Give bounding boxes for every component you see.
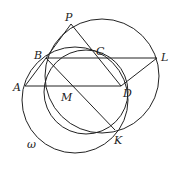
segment-BK — [46, 58, 115, 130]
point-label-C: C — [96, 45, 105, 58]
segment-AB — [25, 58, 46, 86]
segment-DL — [121, 58, 157, 86]
segment-BP — [46, 24, 71, 58]
point-label-P: P — [64, 11, 73, 24]
circle-omega — [22, 47, 128, 153]
point-label-A: A — [12, 81, 21, 94]
labels: ωABPCLMDK — [12, 11, 168, 151]
point-label-M: M — [60, 91, 73, 104]
point-label-B: B — [33, 49, 42, 62]
geometry-diagram: ωABPCLMDK — [0, 0, 176, 173]
circle-label-omega: ω — [27, 138, 36, 151]
point-label-D: D — [122, 87, 132, 100]
point-label-L: L — [160, 51, 168, 64]
point-label-K: K — [113, 134, 123, 147]
circle-circle-bcd — [44, 50, 128, 134]
